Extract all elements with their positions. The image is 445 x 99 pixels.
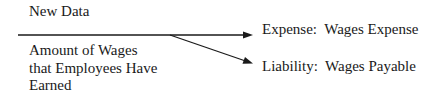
expense-output-label: Expense: Wages Expense bbox=[262, 21, 418, 38]
arrowhead-expense-icon bbox=[243, 32, 253, 39]
arrow-connector-diagram bbox=[0, 0, 445, 99]
arrowhead-liability-icon bbox=[243, 57, 254, 64]
branch-diagonal-line bbox=[170, 35, 247, 62]
liability-output-label: Liability: Wages Payable bbox=[262, 58, 416, 75]
